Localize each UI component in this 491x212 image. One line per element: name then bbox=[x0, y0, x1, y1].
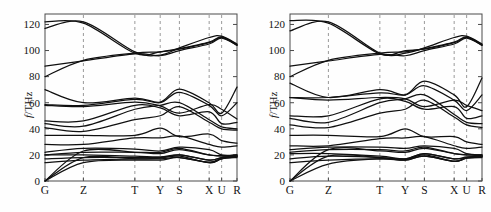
x-tick-label-R: R bbox=[478, 184, 486, 196]
band-curve-band-1 bbox=[45, 21, 237, 56]
x-tick-label-S: S bbox=[421, 184, 427, 196]
x-tick-label-Y: Y bbox=[156, 184, 165, 196]
x-tick-label-X: X bbox=[205, 184, 214, 196]
y-axis-label-unit: /THz bbox=[22, 91, 34, 114]
x-tick-label-X: X bbox=[450, 184, 459, 196]
band-curve-band-11 bbox=[45, 128, 237, 143]
band-curve-band-13 bbox=[45, 147, 237, 155]
x-tick-label-Z: Z bbox=[325, 184, 332, 196]
band-curve-band-1 bbox=[290, 21, 482, 56]
y-tick-label: 0 bbox=[35, 175, 41, 187]
y-tick-label: 120 bbox=[24, 18, 41, 30]
x-tick-label-T: T bbox=[131, 184, 138, 196]
y-tick-label: 100 bbox=[24, 44, 41, 56]
dispersion-panel-right: f/THz 020406080100120GZTYSXUR bbox=[245, 0, 491, 212]
band-curves bbox=[290, 20, 482, 181]
band-curve-band-3 bbox=[290, 37, 482, 77]
y-tick-label: 100 bbox=[269, 44, 286, 56]
y-tick-label: 120 bbox=[269, 18, 286, 30]
band-curves bbox=[45, 20, 237, 181]
x-tick-label-Y: Y bbox=[401, 184, 410, 196]
band-curve-acoustic-1 bbox=[45, 149, 237, 181]
y-tick-label: 40 bbox=[274, 123, 286, 135]
dispersion-panel-left: f/THz 020406080100120GZTYSXUR bbox=[0, 0, 246, 212]
band-curve-band-12 bbox=[45, 136, 237, 147]
x-tick-label-T: T bbox=[376, 184, 383, 196]
y-axis-label-left: f/THz bbox=[22, 91, 34, 118]
y-axis-label-right: f/THz bbox=[267, 91, 279, 118]
band-curve-band-12 bbox=[290, 136, 482, 148]
band-curve-acoustic-1 bbox=[290, 148, 482, 181]
x-tick-label-Z: Z bbox=[80, 184, 87, 196]
x-tick-label-G: G bbox=[41, 184, 49, 196]
y-axis-label-symbol: f bbox=[22, 115, 34, 118]
y-axis-label-symbol: f bbox=[267, 115, 279, 118]
y-tick-label: 20 bbox=[274, 149, 286, 161]
band-curve-band-11 bbox=[290, 129, 482, 145]
phonon-dispersion-figure: f/THz 020406080100120GZTYSXUR f/THz 0204… bbox=[0, 0, 491, 212]
x-tick-label-S: S bbox=[176, 184, 182, 196]
x-tick-label-U: U bbox=[217, 184, 226, 196]
y-tick-label: 80 bbox=[274, 70, 286, 82]
y-tick-label: 20 bbox=[29, 149, 41, 161]
band-curve-acoustic-2 bbox=[45, 155, 237, 181]
y-axis-label-unit: /THz bbox=[267, 91, 279, 114]
band-curve-band-3 bbox=[45, 37, 237, 77]
plot-canvas-right: 020406080100120GZTYSXUR bbox=[245, 0, 491, 212]
plot-canvas-left: 020406080100120GZTYSXUR bbox=[0, 0, 246, 212]
x-tick-label-U: U bbox=[462, 184, 471, 196]
y-tick-label: 0 bbox=[280, 175, 286, 187]
x-tick-label-R: R bbox=[233, 184, 241, 196]
x-tick-label-G: G bbox=[286, 184, 294, 196]
y-tick-label: 40 bbox=[29, 123, 41, 135]
y-tick-label: 80 bbox=[29, 70, 41, 82]
